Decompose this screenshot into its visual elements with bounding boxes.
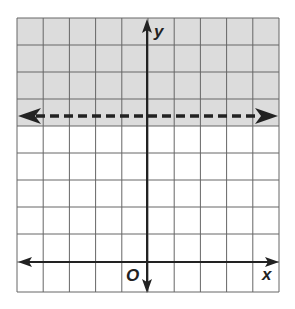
x-axis-label: x (261, 265, 273, 284)
origin-label: O (126, 266, 139, 285)
y-axis-label: y (153, 22, 165, 41)
coordinate-plane: y x O (0, 0, 295, 309)
